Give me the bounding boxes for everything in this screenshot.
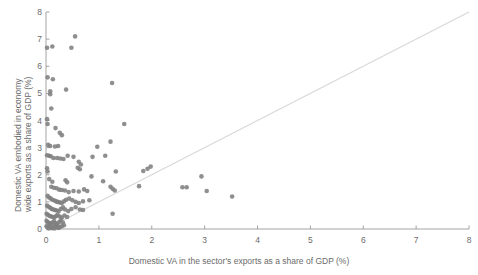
data-point	[81, 199, 86, 204]
plot-area	[0, 0, 478, 275]
data-point	[110, 212, 115, 217]
data-point	[66, 190, 71, 195]
x-axis-tick-label: 7	[414, 236, 419, 245]
data-point	[71, 155, 76, 160]
data-point	[76, 201, 81, 206]
data-point	[51, 77, 56, 82]
data-point	[230, 194, 235, 199]
data-point	[62, 223, 67, 228]
y-axis-tick-label: 4	[32, 116, 42, 125]
data-point	[137, 184, 142, 189]
data-point	[65, 215, 70, 220]
data-point	[61, 157, 66, 162]
data-point	[204, 189, 209, 194]
data-point	[108, 139, 113, 144]
x-axis-tick-label: 2	[149, 236, 154, 245]
y-axis-tick-label: 5	[32, 89, 42, 98]
data-point-group	[44, 34, 234, 231]
data-point	[85, 189, 90, 194]
x-axis-tick-label: 3	[202, 236, 207, 245]
data-point	[95, 145, 100, 150]
scatter-chart: Domestic VA in the sector's exports as a…	[0, 0, 478, 275]
y-axis-tick-label: 3	[32, 143, 42, 152]
data-point	[110, 81, 115, 86]
x-axis-title: Domestic VA in the sector's exports as a…	[0, 256, 478, 266]
y-axis-tick-label: 7	[32, 35, 42, 44]
data-point	[64, 87, 69, 92]
y-axis-tick-label: 0	[32, 225, 42, 234]
data-point	[71, 189, 76, 194]
data-point	[45, 75, 50, 80]
data-point	[49, 106, 54, 111]
y-axis-tick-label: 1	[32, 198, 42, 207]
x-axis-tick-label: 0	[44, 236, 49, 245]
data-point	[48, 144, 53, 149]
x-axis-tick-label: 4	[255, 236, 260, 245]
data-point	[78, 167, 83, 172]
data-point	[76, 189, 81, 194]
x-axis-tick-label: 1	[97, 236, 102, 245]
data-point	[184, 185, 189, 190]
data-point	[45, 117, 50, 122]
data-point	[60, 133, 65, 138]
data-point	[56, 144, 61, 149]
data-point	[141, 169, 146, 174]
data-point	[45, 122, 50, 127]
data-point	[101, 179, 106, 184]
data-point	[69, 46, 74, 51]
data-point	[69, 207, 74, 212]
data-point	[87, 198, 92, 203]
data-point	[114, 169, 119, 174]
data-point	[53, 126, 58, 131]
y-axis-tick-label: 2	[32, 171, 42, 180]
x-axis-tick-label: 8	[467, 236, 472, 245]
data-point	[50, 180, 55, 185]
data-point	[81, 208, 86, 213]
data-point	[73, 205, 78, 210]
data-point	[122, 122, 127, 127]
data-point	[48, 92, 53, 97]
data-point	[199, 174, 204, 179]
data-point	[180, 185, 185, 190]
data-point	[56, 226, 61, 231]
data-point	[65, 153, 70, 158]
x-axis-tick-label: 6	[361, 236, 366, 245]
y-axis-tick-label: 8	[32, 8, 42, 17]
data-point	[45, 169, 50, 174]
reference-line-45deg	[46, 12, 469, 229]
data-point	[148, 164, 153, 169]
data-point	[89, 174, 94, 179]
data-point	[50, 44, 55, 49]
data-point	[103, 153, 108, 158]
data-point	[112, 188, 117, 193]
data-point	[45, 46, 50, 51]
data-point	[65, 180, 70, 185]
y-axis-title-line-1: Domestic VA embodied in economy	[13, 78, 23, 212]
data-point	[90, 155, 95, 160]
data-point	[73, 34, 78, 39]
x-axis-tick-label: 5	[308, 236, 313, 245]
y-axis-tick-label: 6	[32, 62, 42, 71]
